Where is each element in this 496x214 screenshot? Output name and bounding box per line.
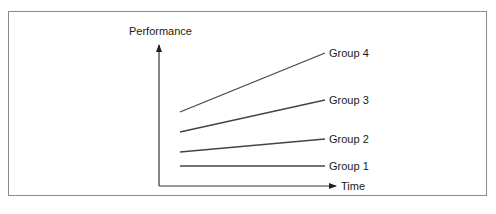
- group2-label: Group 2: [329, 133, 369, 145]
- group3-label: Group 3: [329, 94, 369, 106]
- group1-label: Group 1: [329, 160, 369, 172]
- group2-line: [180, 139, 325, 152]
- y-axis-label: Performance: [129, 25, 192, 37]
- group4-line: [180, 53, 325, 112]
- performance-diagram: Performance Time Group 4 Group 3 Group 2…: [0, 0, 496, 214]
- group4-label: Group 4: [329, 47, 369, 59]
- group3-line: [180, 100, 325, 132]
- x-axis-label: Time: [341, 180, 365, 192]
